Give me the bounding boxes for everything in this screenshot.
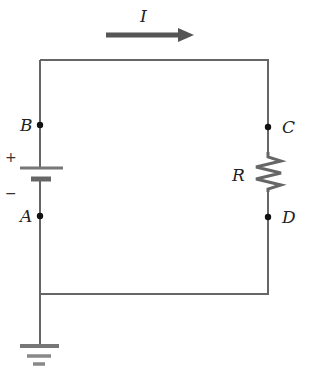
current-label: I	[139, 6, 147, 26]
battery	[20, 168, 63, 179]
node-b-dot	[37, 122, 43, 128]
battery-minus: −	[5, 185, 17, 201]
node-a-label: A	[18, 206, 32, 226]
ground-icon	[20, 346, 59, 364]
node-d-dot	[265, 214, 271, 220]
resistor-label: R	[231, 165, 245, 185]
resistor	[256, 152, 281, 192]
current-arrow	[106, 28, 194, 42]
wires	[40, 60, 269, 345]
node-c-dot	[265, 124, 271, 130]
node-c-label: C	[282, 117, 295, 137]
node-b-label: B	[19, 115, 33, 135]
node-d-label: D	[281, 207, 296, 227]
circuit-diagram: I + − R B A C D	[0, 0, 314, 373]
battery-plus: +	[5, 149, 17, 165]
node-a-dot	[37, 213, 43, 219]
